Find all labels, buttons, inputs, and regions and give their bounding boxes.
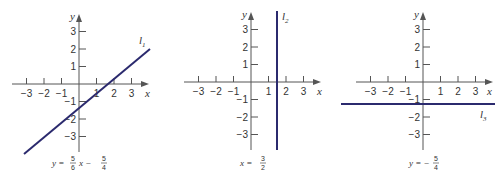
graph-l1: −3 −2 −1 1 2 3 x 3 2 1 −1 −2 −3 y l1 y =… bbox=[12, 10, 150, 171]
y-tick-label: −1 bbox=[237, 94, 249, 105]
equation-caption: x = 3 2 bbox=[239, 155, 266, 171]
y-axis-label: y bbox=[413, 8, 419, 20]
svg-text:y =: y = bbox=[51, 158, 64, 168]
x-tick-label: −3 bbox=[365, 86, 377, 97]
y-axis-arrow-icon bbox=[248, 12, 254, 20]
graph-l2: −3 −2 −1 1 2 3 x 3 2 1 −1 −2 −3 y l2 x =… bbox=[184, 8, 322, 171]
x-tick-label: −2 bbox=[38, 88, 50, 99]
svg-text:5: 5 bbox=[71, 155, 75, 162]
svg-text:5: 5 bbox=[102, 155, 106, 162]
x-tick-label: 2 bbox=[111, 88, 117, 99]
y-tick-label: −2 bbox=[237, 112, 249, 123]
y-axis-arrow-icon bbox=[420, 12, 426, 20]
x-axis-label: x bbox=[144, 87, 150, 99]
x-axis-label: x bbox=[316, 85, 322, 97]
svg-text:4: 4 bbox=[102, 164, 106, 171]
svg-text:y = −: y = − bbox=[408, 158, 430, 168]
y-axis-label: y bbox=[241, 8, 247, 20]
svg-text:4: 4 bbox=[434, 164, 438, 171]
y-tick-label: −1 bbox=[65, 96, 77, 107]
x-tick-label: −3 bbox=[193, 86, 205, 97]
line-label-l3: l3 bbox=[480, 108, 487, 123]
x-tick-label: 2 bbox=[283, 86, 289, 97]
equation-caption: y = 5 6 x − 5 4 bbox=[51, 155, 107, 171]
svg-text:5: 5 bbox=[434, 155, 438, 162]
x-tick-label: 3 bbox=[129, 88, 135, 99]
y-tick-label: 2 bbox=[414, 42, 420, 53]
y-tick-label: −3 bbox=[237, 129, 249, 140]
y-axis-arrow-icon bbox=[76, 14, 82, 22]
svg-text:3: 3 bbox=[261, 155, 265, 162]
x-tick-label: 2 bbox=[455, 86, 461, 97]
x-axis-label: x bbox=[486, 85, 492, 97]
graph-l3: −3 −2 −1 1 2 3 x 3 2 1 −1 −2 −3 y l3 y =… bbox=[341, 8, 495, 171]
y-tick-label: 2 bbox=[242, 42, 248, 53]
y-tick-label: 1 bbox=[70, 61, 76, 72]
y-tick-label: 2 bbox=[70, 44, 76, 55]
equation-caption: y = − 5 4 bbox=[408, 155, 439, 171]
y-tick-label: 1 bbox=[242, 59, 248, 70]
x-tick-label: 1 bbox=[438, 86, 444, 97]
svg-text:x −: x − bbox=[78, 158, 91, 168]
y-tick-label: 3 bbox=[70, 26, 76, 37]
svg-text:6: 6 bbox=[71, 164, 75, 171]
y-tick-label: −2 bbox=[409, 112, 421, 123]
y-axis-label: y bbox=[69, 10, 75, 22]
svg-text:x =: x = bbox=[239, 158, 252, 168]
line-label-l1: l1 bbox=[139, 34, 146, 49]
x-tick-label: −3 bbox=[21, 88, 33, 99]
x-tick-label: 3 bbox=[301, 86, 307, 97]
svg-text:2: 2 bbox=[261, 164, 265, 171]
line-label-l2: l2 bbox=[282, 10, 289, 25]
y-tick-label: 3 bbox=[414, 24, 420, 35]
y-tick-label: 1 bbox=[414, 59, 420, 70]
x-tick-label: 1 bbox=[266, 86, 272, 97]
y-tick-label: 3 bbox=[242, 24, 248, 35]
y-tick-label: −3 bbox=[409, 129, 421, 140]
x-tick-label: −2 bbox=[210, 86, 222, 97]
x-tick-label: 3 bbox=[473, 86, 479, 97]
y-tick-label: −3 bbox=[65, 131, 77, 142]
x-tick-label: −2 bbox=[382, 86, 394, 97]
line-l1 bbox=[24, 49, 150, 154]
